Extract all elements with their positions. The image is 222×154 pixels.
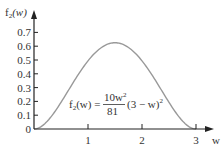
y-axis-title: f2(w)	[5, 6, 27, 20]
x-axis-arrow-icon	[205, 126, 214, 132]
svg-text:f2(w) =: f2(w) =	[69, 98, 100, 112]
x-tick-label: 3	[193, 134, 199, 146]
svg-text:(3 − w)2: (3 − w)2	[127, 97, 163, 111]
equation-annotation: f2(w) = 10w2 81 (3 − w)2	[69, 91, 163, 117]
x-ticks	[88, 124, 196, 129]
svg-text:10w2: 10w2	[104, 91, 127, 103]
y-tick-label: 0.4	[17, 68, 31, 80]
y-tick-label: 0.5	[17, 54, 31, 66]
y-tick-label: 0.6	[17, 40, 31, 52]
y-tick-label: 0.1	[17, 109, 31, 121]
x-tick-label: 2	[139, 134, 145, 146]
y-axis-arrow-icon	[31, 10, 37, 19]
y-tick-label: 0	[26, 123, 32, 135]
x-axis-title: w	[212, 134, 220, 146]
y-tick-label: 0.7	[17, 26, 31, 38]
density-chart: 0 0.1 0.2 0.3 0.4 0.5 0.6 0.7 1 2 3 f2(w…	[0, 0, 222, 154]
x-tick-label: 1	[85, 134, 91, 146]
y-tick-label: 0.3	[17, 82, 31, 94]
svg-text:81: 81	[107, 105, 118, 117]
y-tick-label: 0.2	[17, 95, 31, 107]
